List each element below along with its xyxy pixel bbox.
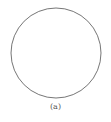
circle-shape: [11, 8, 101, 98]
figure-caption: (a): [0, 102, 111, 111]
